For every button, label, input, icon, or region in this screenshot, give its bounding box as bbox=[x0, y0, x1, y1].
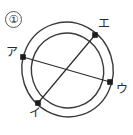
point-label-i: イ bbox=[29, 107, 41, 119]
chord-i-e bbox=[38, 35, 95, 103]
point-label-a: ア bbox=[6, 46, 18, 58]
point-label-u: ウ bbox=[116, 83, 128, 95]
point-marker-e bbox=[92, 32, 98, 38]
point-marker-u bbox=[107, 79, 113, 85]
point-marker-i bbox=[35, 100, 41, 106]
figure-canvas bbox=[0, 0, 133, 135]
point-label-e: エ bbox=[98, 18, 110, 30]
point-marker-a bbox=[20, 54, 26, 60]
geometry-figure: ① ア イ ウ エ bbox=[0, 0, 133, 135]
